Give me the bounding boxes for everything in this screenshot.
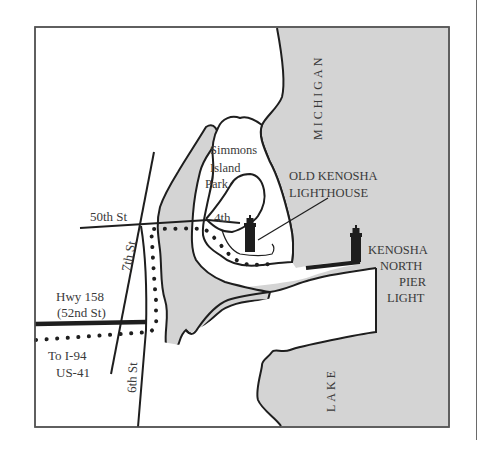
page-divider <box>476 0 477 440</box>
route-label-us41: US-41 <box>56 365 90 380</box>
street-label-50th: 50th St <box>90 209 128 224</box>
park-label-line3: Park <box>205 177 229 191</box>
street-label-4th: 4th <box>214 210 231 225</box>
street-label-6th: 6th St <box>124 362 140 394</box>
lake-label-lake: LAKE <box>324 368 338 412</box>
pier-light-label-line1: KENOSHA <box>368 243 428 257</box>
lake-label-michigan: MICHIGAN <box>311 55 325 140</box>
route-label-i94: To I-94 <box>48 348 87 363</box>
old-lighthouse-label-line2: LIGHTHOUSE <box>289 186 369 200</box>
street-label-hwy-158: Hwy 158 <box>56 289 104 304</box>
map: MICHIGAN LAKE Simmons Island Park 50th S… <box>0 0 480 452</box>
park-label-line2: Island <box>210 161 241 175</box>
park-label-line1: Simmons <box>210 143 257 157</box>
pier-light-label-line3: PIER <box>399 275 427 289</box>
pier-light-label-line2: NORTH <box>380 259 422 273</box>
pier-light-label-line4: LIGHT <box>387 291 425 305</box>
street-label-52nd: (52nd St) <box>57 305 106 320</box>
old-lighthouse-label-line1: OLD KENOSHA <box>289 169 378 183</box>
road-hwy-158 <box>35 322 146 324</box>
